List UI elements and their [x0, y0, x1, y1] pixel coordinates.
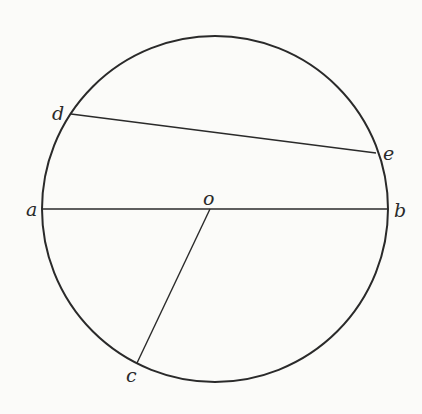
chord-de — [71, 114, 376, 153]
label-e: e — [383, 142, 394, 164]
label-o: o — [203, 187, 214, 209]
circle-diagram: a b o d e c — [0, 0, 422, 414]
label-d: d — [52, 102, 64, 124]
radius-oc — [137, 209, 210, 363]
label-b: b — [394, 199, 406, 221]
label-c: c — [126, 364, 137, 386]
label-a: a — [26, 198, 37, 220]
